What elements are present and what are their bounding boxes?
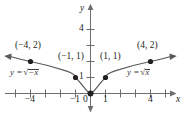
- x-tick-label-4: 4: [148, 95, 153, 105]
- point-marker-pos4: [148, 59, 153, 64]
- radical-bar-left: [28, 69, 39, 70]
- origin-tick-label: 0: [83, 95, 88, 105]
- y-tick-label-1: 1: [79, 72, 84, 82]
- equation-label-left: y =√−x: [10, 68, 38, 77]
- y-axis-label: y: [80, 4, 84, 14]
- y-axis-arrow: [88, 4, 94, 10]
- x-tick-label-1: 1: [103, 95, 108, 105]
- x-axis-label: x: [176, 95, 180, 105]
- equation-right-lhs: y =: [127, 67, 139, 77]
- x-tick-label--1: −1: [70, 95, 80, 105]
- curve-right-arrow: [169, 54, 176, 60]
- point-label-neg4: (−4, 2): [15, 41, 41, 51]
- equation-left-lhs: y =: [10, 67, 22, 77]
- point-marker-origin: [88, 91, 94, 97]
- point-label-neg1: (−1, 1): [58, 52, 84, 62]
- point-marker-pos1: [103, 75, 108, 80]
- radical-icon-left: √−x: [22, 68, 38, 77]
- point-label-pos1: (1, 1): [100, 52, 121, 62]
- x-tick-label--4: −4: [25, 95, 35, 105]
- graph-figure: y x 0 −4 −1 1 4 1 4 (−4, 2) (−1, 1) (1, …: [0, 0, 184, 116]
- radical-icon-right: √x: [139, 68, 149, 77]
- radical-bar-right: [145, 69, 150, 70]
- point-marker-neg4: [28, 59, 33, 64]
- curve-left-arrow: [4, 54, 11, 60]
- y-axis-bottom-arrow: [88, 106, 94, 113]
- point-marker-neg1: [73, 75, 78, 80]
- y-tick-label-4: 4: [79, 24, 84, 34]
- equation-label-right: y =√x: [127, 68, 149, 77]
- point-label-pos4: (4, 2): [137, 41, 158, 51]
